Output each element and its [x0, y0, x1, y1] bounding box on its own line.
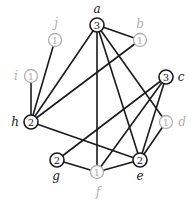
node-g: 2 g — [50, 153, 64, 183]
node-c-value: 3 — [163, 72, 169, 83]
node-d-label: d — [178, 115, 186, 129]
node-c-label: c — [178, 70, 185, 84]
node-b: 1 b — [134, 17, 147, 47]
node-d: 1 d — [160, 115, 187, 129]
node-b-label: b — [136, 17, 144, 31]
node-b-value: 1 — [137, 35, 143, 46]
node-j-value: 1 — [52, 35, 58, 46]
node-f-label: f — [95, 185, 103, 199]
node-a-label: a — [93, 2, 100, 16]
edges — [31, 25, 166, 172]
node-e-value: 2 — [137, 155, 143, 166]
node-e-label: e — [136, 169, 143, 183]
node-g-label: g — [52, 169, 60, 183]
node-c: 3 c — [159, 70, 185, 84]
node-d-value: 1 — [163, 117, 169, 128]
edge-e-h — [31, 122, 140, 160]
node-i: 1 i — [14, 69, 37, 83]
edge-a-h — [31, 25, 97, 122]
node-h-label: h — [11, 115, 19, 129]
node-f-value: 1 — [94, 167, 100, 178]
node-h: 2 h — [11, 115, 38, 129]
node-f: 1 f — [91, 166, 104, 200]
node-i-value: 1 — [28, 71, 34, 82]
node-i-label: i — [14, 69, 18, 83]
node-g-value: 2 — [54, 155, 60, 166]
node-e: 2 e — [133, 153, 147, 183]
node-a-value: 3 — [94, 20, 100, 31]
node-j: 1 j — [49, 16, 62, 47]
node-j-label: j — [51, 16, 58, 30]
graph-diagram: 3 a 1 b 3 c 1 d 2 e 1 f 2 — [0, 0, 194, 206]
node-a: 3 a — [90, 2, 104, 32]
node-h-value: 2 — [28, 117, 34, 128]
